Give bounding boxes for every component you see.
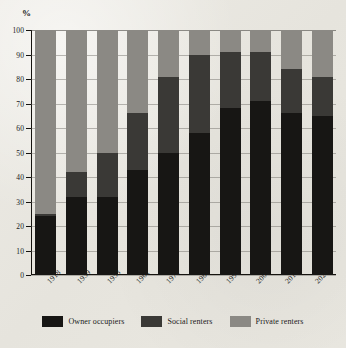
bar-1939[interactable] — [66, 30, 87, 275]
y-tick-label-70: 70 — [16, 99, 24, 108]
bar-segment-private-renters-2020 — [312, 30, 333, 77]
plot-area: 1009080706050403020100 — [31, 30, 336, 275]
bar-segment-owner-occupiers-2001 — [250, 101, 271, 275]
bar-segment-social-renters-2001 — [250, 52, 271, 101]
bar-segment-private-renters-1953 — [97, 30, 118, 153]
bar-1961[interactable] — [127, 30, 148, 275]
legend-label: Social renters — [167, 317, 212, 326]
bar-segment-private-renters-1971 — [158, 30, 179, 77]
bar-segment-owner-occupiers-2020 — [312, 116, 333, 275]
y-tick-mark-0 — [26, 275, 31, 276]
legend-item-social-renters[interactable]: Social renters — [141, 316, 212, 327]
y-axis-unit-label: % — [22, 8, 31, 18]
bar-segment-social-renters-2020 — [312, 77, 333, 116]
bar-1981[interactable] — [189, 30, 210, 275]
bar-1953[interactable] — [97, 30, 118, 275]
bar-segment-social-renters-1939 — [66, 172, 87, 197]
bar-segment-social-renters-1961 — [127, 113, 148, 169]
bar-2020[interactable] — [312, 30, 333, 275]
y-tick-label-20: 20 — [16, 222, 24, 231]
y-tick-label-40: 40 — [16, 173, 24, 182]
legend-swatch-icon — [141, 316, 162, 327]
bar-segment-social-renters-1981 — [189, 55, 210, 133]
bar-segment-private-renters-1981 — [189, 30, 210, 55]
y-tick-label-90: 90 — [16, 50, 24, 59]
bar-segment-owner-occupiers-1918 — [35, 216, 56, 275]
bar-segment-owner-occupiers-2011 — [281, 113, 302, 275]
bar-segment-social-renters-1953 — [97, 153, 118, 197]
y-tick-label-10: 10 — [16, 246, 24, 255]
bar-segment-social-renters-2011 — [281, 69, 302, 113]
bar-segment-private-renters-2011 — [281, 30, 302, 69]
bar-segment-owner-occupiers-1981 — [189, 133, 210, 275]
legend-label: Owner occupiers — [68, 317, 124, 326]
bar-2011[interactable] — [281, 30, 302, 275]
bar-1971[interactable] — [158, 30, 179, 275]
bar-segment-private-renters-1961 — [127, 30, 148, 113]
bar-1991[interactable] — [220, 30, 241, 275]
y-tick-label-50: 50 — [16, 148, 24, 157]
bar-group — [31, 30, 336, 275]
legend-item-private-renters[interactable]: Private renters — [230, 316, 304, 327]
bar-segment-social-renters-1991 — [220, 52, 241, 108]
bar-segment-private-renters-1991 — [220, 30, 241, 52]
bar-segment-private-renters-1939 — [66, 30, 87, 172]
bar-segment-private-renters-1918 — [35, 30, 56, 214]
legend-label: Private renters — [256, 317, 304, 326]
legend-swatch-icon — [230, 316, 251, 327]
legend-swatch-icon — [42, 316, 63, 327]
bar-segment-owner-occupiers-1971 — [158, 153, 179, 276]
y-tick-label-80: 80 — [16, 75, 24, 84]
y-tick-label-30: 30 — [16, 197, 24, 206]
stacked-bar-chart: % 1009080706050403020100 191819391953196… — [0, 0, 346, 348]
bar-segment-owner-occupiers-1991 — [220, 108, 241, 275]
chart-legend: Owner occupiersSocial rentersPrivate ren… — [0, 316, 346, 327]
bar-segment-social-renters-1971 — [158, 77, 179, 153]
legend-item-owner-occupiers[interactable]: Owner occupiers — [42, 316, 124, 327]
y-tick-label-0: 0 — [20, 271, 24, 280]
bar-2001[interactable] — [250, 30, 271, 275]
y-tick-label-60: 60 — [16, 124, 24, 133]
bar-segment-private-renters-2001 — [250, 30, 271, 52]
y-tick-label-100: 100 — [12, 26, 24, 35]
bar-1918[interactable] — [35, 30, 56, 275]
